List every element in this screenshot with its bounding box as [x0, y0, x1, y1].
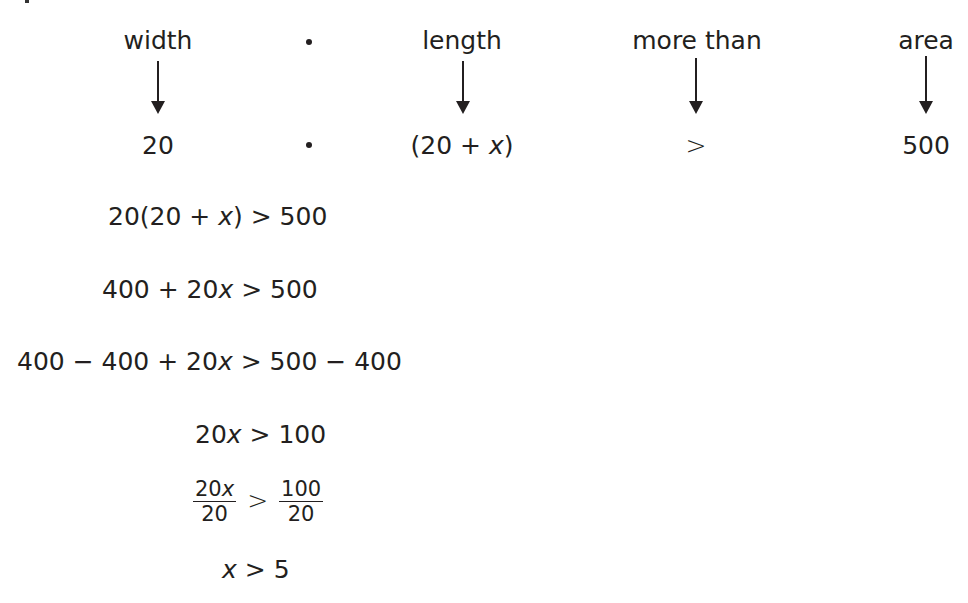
equation-step-2: 400 + 20x > 500	[102, 277, 318, 302]
fraction-right-numerator: 100	[279, 478, 323, 502]
equation-step-3: 400 − 400 + 20x > 500 − 400	[17, 349, 402, 374]
eq-var: x	[222, 477, 234, 501]
value-more-than: >	[686, 133, 707, 158]
eq-text: 500	[262, 275, 318, 304]
eq-text: 5	[266, 555, 290, 584]
eq-var: x	[222, 555, 237, 584]
eq-text: 20	[195, 420, 227, 449]
equation-step-1: 20(20 + x) > 500	[108, 204, 327, 229]
label-area: area	[898, 28, 954, 53]
down-arrow-icon	[695, 58, 697, 102]
eq-op: >	[251, 202, 272, 231]
eq-op: >	[241, 275, 262, 304]
eq-text: )	[233, 202, 251, 231]
equation-step-6: x > 5	[222, 557, 290, 582]
eq-text: 500	[272, 202, 328, 231]
eq-op: >	[247, 486, 268, 515]
value-width: 20	[142, 133, 174, 158]
value-length-var: x	[489, 131, 504, 160]
equation-step-4: 20x > 100	[195, 422, 326, 447]
fraction-right-denominator: 20	[288, 502, 315, 525]
multiplication-dot-icon	[306, 142, 312, 148]
eq-text	[233, 347, 241, 376]
eq-text	[237, 555, 245, 584]
eq-text	[242, 420, 250, 449]
equation-step-5: 20x 20 > 100 20	[193, 478, 323, 525]
label-width: width	[124, 28, 193, 53]
cropped-glyph-artifact	[25, 0, 29, 3]
eq-text: 20	[195, 477, 222, 501]
eq-op: >	[245, 555, 266, 584]
eq-text: 400 − 400 + 20	[17, 347, 218, 376]
eq-var: x	[218, 202, 233, 231]
fraction-left-denominator: 20	[201, 502, 228, 525]
value-area: 500	[902, 133, 950, 158]
eq-text: 20(20 +	[108, 202, 218, 231]
value-length: (20 + x)	[411, 133, 514, 158]
eq-var: x	[218, 347, 233, 376]
eq-text: 400 + 20	[102, 275, 218, 304]
eq-op: >	[250, 420, 271, 449]
fraction-right: 100 20	[279, 478, 323, 525]
label-length: length	[422, 28, 502, 53]
down-arrow-icon	[462, 61, 464, 102]
fraction-left: 20x 20	[193, 478, 236, 525]
eq-text: 100	[271, 420, 327, 449]
eq-text: 500 − 400	[262, 347, 402, 376]
eq-var: x	[218, 275, 233, 304]
eq-op: >	[241, 347, 262, 376]
down-arrow-icon	[925, 56, 927, 102]
label-more-than: more than	[632, 28, 762, 53]
eq-var: x	[227, 420, 242, 449]
value-length-prefix: (20 +	[411, 131, 489, 160]
fraction-left-numerator: 20x	[193, 478, 236, 502]
eq-text	[233, 275, 241, 304]
value-length-suffix: )	[504, 131, 514, 160]
down-arrow-icon	[157, 61, 159, 102]
multiplication-dot-icon	[306, 39, 312, 45]
